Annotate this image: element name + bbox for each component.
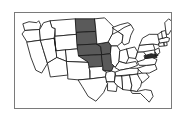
state-new-york[interactable] bbox=[140, 34, 161, 45]
us-map[interactable] bbox=[15, 13, 171, 108]
state-arkansas[interactable] bbox=[106, 71, 116, 82]
state-florida[interactable] bbox=[131, 90, 153, 103]
map-frame bbox=[14, 12, 172, 109]
state-wyoming[interactable] bbox=[55, 34, 77, 50]
state-north-dakota[interactable] bbox=[76, 19, 96, 33]
state-new-mexico[interactable] bbox=[67, 61, 90, 79]
state-south-dakota[interactable] bbox=[77, 31, 97, 45]
state-nebraska[interactable] bbox=[77, 44, 101, 56]
figure-container bbox=[0, 0, 186, 122]
state-texas[interactable] bbox=[78, 77, 107, 101]
state-washington[interactable] bbox=[23, 21, 40, 31]
state-maine[interactable] bbox=[165, 19, 171, 35]
